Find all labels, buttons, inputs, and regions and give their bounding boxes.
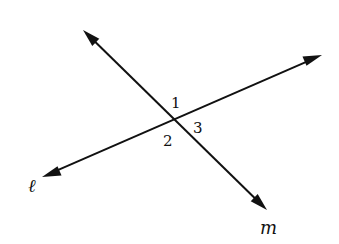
arrowhead-l-left-icon (42, 166, 62, 177)
intersecting-lines-diagram: 1 2 3 ℓ m (0, 0, 339, 244)
line-m (83, 30, 267, 210)
line-l (42, 55, 322, 177)
line-l-segment (52, 59, 312, 172)
line-m-segment (91, 37, 260, 202)
line-label-l: ℓ (28, 175, 36, 196)
angle-label-1: 1 (171, 94, 181, 112)
angle-label-2: 2 (163, 132, 173, 150)
line-label-m: m (260, 217, 277, 238)
angle-label-3: 3 (193, 119, 203, 137)
arrowhead-l-right-icon (303, 55, 323, 66)
